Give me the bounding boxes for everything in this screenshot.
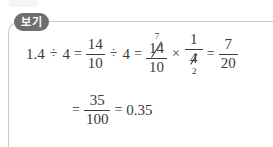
fraction-numerator: 14 [86, 37, 105, 53]
fraction-35-over-100: 35 100 [84, 93, 111, 128]
divide-icon-1: ÷ [50, 47, 58, 61]
fraction-numerator: 35 [88, 93, 107, 109]
fraction-denominator: 100 [84, 112, 111, 128]
fraction-numerator-cancelled: 7 14 [146, 41, 167, 57]
divisor-1: 4 [62, 47, 70, 62]
cancellation-group: 4 2 [189, 51, 199, 67]
equals-2: = [134, 47, 142, 61]
worksheet-screenshot: 보기 1.4 ÷ 4 = 14 10 ÷ 4 = 7 14 [0, 0, 273, 147]
fraction-14-over-10: 14 10 [86, 37, 105, 72]
equation-line-1: 1.4 ÷ 4 = 14 10 ÷ 4 = 7 14 10 [0, 30, 273, 78]
divide-icon-2: ÷ [110, 47, 118, 61]
fraction-14-over-10-cancelled: 7 14 10 [146, 41, 167, 76]
fraction-numerator: 1 [188, 32, 200, 48]
fraction-denominator: 20 [219, 56, 238, 72]
cancellation-result-below: 2 [192, 67, 197, 76]
cancellation-group: 7 14 [148, 41, 165, 57]
equals-5: = [114, 103, 122, 117]
final-result: 0.35 [126, 103, 152, 118]
equals-3: = [207, 47, 215, 61]
fraction-1-over-4-cancelled: 1 4 2 [185, 32, 203, 67]
multiply-icon: × [172, 47, 180, 61]
struck-numeral: 4 [189, 51, 199, 67]
struck-numeral: 14 [148, 41, 165, 57]
fraction-denominator-cancelled: 4 2 [187, 51, 201, 67]
equation-block: 1.4 ÷ 4 = 14 10 ÷ 4 = 7 14 10 [0, 30, 273, 132]
divisor-2: 4 [123, 47, 131, 62]
example-badge-label: 보기 [21, 17, 42, 28]
start-value: 1.4 [26, 47, 45, 62]
fraction-denominator: 10 [86, 56, 105, 72]
fraction-denominator: 10 [147, 60, 166, 76]
fraction-7-over-20: 7 20 [219, 37, 238, 72]
example-badge: 보기 [14, 13, 49, 31]
equation-line-2: = 35 100 = 0.35 [0, 88, 273, 132]
fraction-numerator: 7 [223, 37, 235, 53]
equals-1: = [74, 47, 82, 61]
equals-4: = [72, 103, 80, 117]
top-cutoff-artifact [8, 0, 38, 7]
